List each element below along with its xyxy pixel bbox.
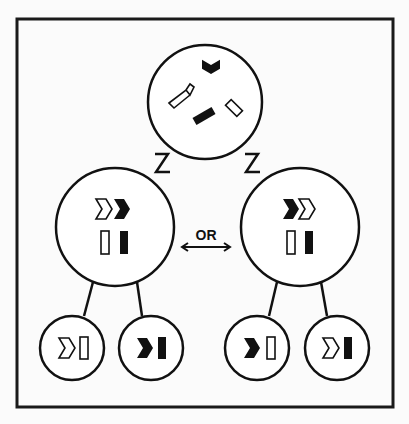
white-bar-icon (80, 337, 88, 359)
right-middle-node (241, 168, 359, 286)
left-zigzag-connector (155, 154, 170, 172)
white-bar-icon (287, 231, 295, 254)
white-bar-icon (267, 337, 275, 359)
diagram-canvas: OR (0, 0, 409, 424)
black-bar-icon (344, 337, 352, 359)
black-bar-icon (158, 337, 166, 359)
white-bar-icon (101, 231, 109, 254)
black-bar-icon (305, 231, 313, 254)
top-node (148, 45, 262, 159)
double-arrow-icon (182, 243, 230, 251)
branch-lines (84, 282, 327, 316)
or-label: OR (196, 227, 217, 243)
bottom-node-3 (225, 316, 289, 380)
black-bar-icon (120, 231, 128, 254)
bottom-node-1 (40, 316, 104, 380)
right-zigzag-connector (245, 154, 260, 172)
bottom-node-2 (119, 316, 183, 380)
bottom-node-4 (305, 316, 369, 380)
left-middle-node (56, 168, 174, 286)
